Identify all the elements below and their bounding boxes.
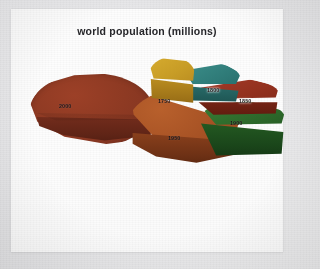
- pie-label-1950: 1950: [168, 135, 180, 141]
- photo-background: world population (millions) 2000 1750 18…: [0, 0, 298, 269]
- slide-canvas: world population (millions) 2000 1750 18…: [11, 9, 283, 252]
- pie-label-2000: 2000: [59, 103, 71, 109]
- pie-label-1750: 1750: [158, 98, 170, 104]
- pie-slice-1750[interactable]: [149, 57, 195, 113]
- pie-slice-1750-side: [149, 79, 195, 113]
- chart-title: world population (millions): [11, 25, 283, 37]
- pie-label-1900: 1900: [230, 120, 242, 126]
- pie-chart: 2000 1750 1800 1850: [11, 57, 283, 237]
- pie-label-1850: 1850: [239, 98, 251, 104]
- pie-label-1800: 1800: [207, 87, 219, 93]
- pie-slice-1900-side: [201, 121, 285, 163]
